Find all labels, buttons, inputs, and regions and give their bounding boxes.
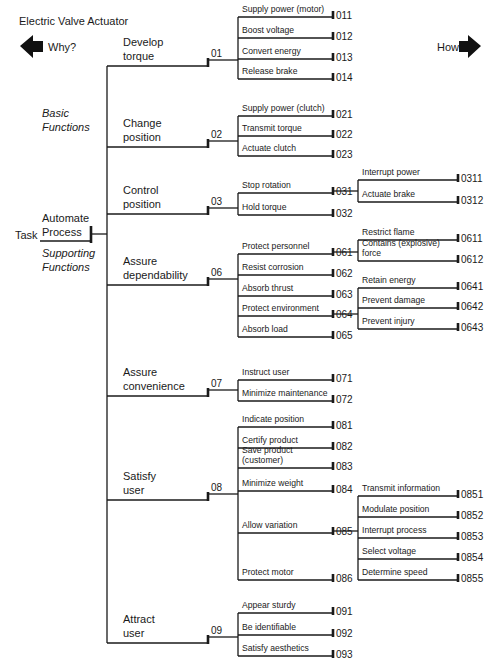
function-code: 071: [336, 373, 353, 384]
function-code: 06: [211, 267, 223, 278]
function-label: Supply power (clutch): [242, 103, 325, 113]
function-code: 014: [336, 72, 353, 83]
function-code: 011: [336, 10, 352, 21]
function-node-0312: 0312Actuate brake: [358, 189, 484, 206]
function-node-0853: 0853Interrupt process: [358, 525, 484, 542]
function-label: position: [123, 131, 161, 143]
function-code: 083: [336, 461, 353, 472]
function-node-063: 063Absorb thrust: [238, 283, 353, 300]
function-code: 063: [336, 289, 353, 300]
function-code: 012: [336, 31, 353, 42]
function-label: Supply power (motor): [242, 4, 324, 14]
function-code: 091: [336, 606, 353, 617]
category-label: Supporting: [42, 247, 96, 259]
category-label: Basic: [42, 107, 69, 119]
function-node-065: 065Absorb load: [238, 324, 353, 341]
function-code: 08: [211, 482, 223, 493]
function-node-0311: 0311Interrupt power: [358, 167, 483, 184]
why-label: Why?: [48, 41, 76, 53]
function-node-08: 08Satisfyuser081Indicate position082Cert…: [107, 414, 484, 584]
function-label: Develop: [123, 36, 163, 48]
function-code: 0642: [461, 301, 484, 312]
function-label: torque: [123, 50, 154, 62]
function-label: Select voltage: [362, 546, 416, 556]
function-code: 01: [211, 48, 223, 59]
function-label: Contains (explosive): [362, 238, 440, 248]
function-code: 072: [336, 394, 353, 405]
function-code: 092: [336, 628, 353, 639]
function-node-0641: 0641Retain energy: [358, 275, 484, 292]
function-node-012: 012Boost voltage: [238, 25, 353, 42]
function-code: 07: [211, 378, 223, 389]
function-node-0854: 0854Select voltage: [358, 546, 484, 563]
function-code: 0853: [461, 531, 484, 542]
function-node-092: 092Be identifiable: [238, 622, 353, 639]
function-label: force: [362, 248, 381, 258]
function-tree: 01Developtorque011Supply power (motor)01…: [40, 4, 484, 660]
function-code: 093: [336, 649, 353, 660]
function-code: 022: [336, 129, 353, 140]
diagram-title: Electric Valve Actuator: [19, 15, 129, 27]
function-node-093: 093Satisfy aesthetics: [238, 643, 353, 660]
function-node-01: 01Developtorque011Supply power (motor)01…: [107, 4, 353, 83]
function-label: position: [123, 198, 161, 210]
function-node-061: 061Protect personnel0611Restrict flame06…: [238, 227, 484, 265]
task-name-line2: Process: [42, 226, 82, 238]
function-label: Attract: [123, 613, 155, 625]
task: Task Automate Process: [15, 212, 89, 241]
function-label: Actuate clutch: [242, 143, 296, 153]
function-label: Transmit torque: [242, 123, 302, 133]
function-node-09: 09Attractuser091Appear sturdy092Be ident…: [107, 600, 353, 660]
function-code: 086: [336, 573, 353, 584]
function-label: Minimize weight: [242, 478, 304, 488]
function-node-072: 072Minimize maintenance: [238, 388, 353, 405]
function-code: 082: [336, 441, 353, 452]
function-label: Modulate position: [362, 504, 430, 514]
function-label: Appear sturdy: [242, 600, 296, 610]
function-code: 032: [336, 208, 353, 219]
task-name-line1: Automate: [42, 212, 89, 224]
function-label: Be identifiable: [242, 622, 296, 632]
function-code: 0312: [461, 195, 484, 206]
fast-diagram: Electric Valve Actuator Why? How? Task A…: [0, 0, 500, 667]
function-code: 0311: [461, 173, 483, 184]
how-nav: How?: [437, 35, 481, 58]
function-code: 0854: [461, 552, 484, 563]
function-label: Assure: [123, 366, 157, 378]
function-code: 065: [336, 330, 353, 341]
function-node-0643: 0643Prevent injury: [358, 316, 484, 333]
function-label: Convert energy: [242, 46, 301, 56]
function-label: Change: [123, 117, 162, 129]
function-label: Actuate brake: [362, 189, 415, 199]
category-label: Functions: [42, 121, 90, 133]
function-node-013: 013Convert energy: [238, 46, 353, 63]
function-label: Transmit information: [362, 483, 440, 493]
function-code: 081: [336, 420, 353, 431]
function-label: Absorb load: [242, 324, 288, 334]
categories: BasicFunctionsSupportingFunctions: [42, 107, 96, 273]
function-node-0642: 0642Prevent damage: [358, 295, 484, 312]
function-label: Absorb thrust: [242, 283, 294, 293]
function-node-0852: 0852Modulate position: [358, 504, 484, 521]
function-node-022: 022Transmit torque: [238, 123, 353, 140]
function-node-091: 091Appear sturdy: [238, 600, 353, 617]
function-node-06: 06Assuredependability061Protect personne…: [107, 227, 484, 341]
function-code: 0612: [461, 254, 484, 265]
function-label: Protect personnel: [242, 241, 309, 251]
function-label: Interrupt power: [362, 167, 420, 177]
function-label: Prevent injury: [362, 316, 415, 326]
function-code: 013: [336, 52, 353, 63]
function-code: 0643: [461, 322, 484, 333]
function-label: dependability: [123, 269, 188, 281]
function-label: user: [123, 484, 145, 496]
function-node-07: 07Assureconvenience071Instruct user072Mi…: [107, 366, 353, 405]
function-code: 0641: [461, 281, 484, 292]
function-node-031: 031Stop rotation0311Interrupt power0312A…: [238, 167, 484, 206]
left-arrow-icon: [20, 35, 43, 58]
function-node-084: 084Minimize weight: [238, 478, 353, 495]
function-label: user: [123, 627, 145, 639]
function-label: Determine speed: [362, 567, 428, 577]
function-node-086: 086Protect motor: [238, 567, 353, 584]
function-label: Resist corrosion: [242, 262, 304, 272]
function-code: 03: [211, 196, 223, 207]
